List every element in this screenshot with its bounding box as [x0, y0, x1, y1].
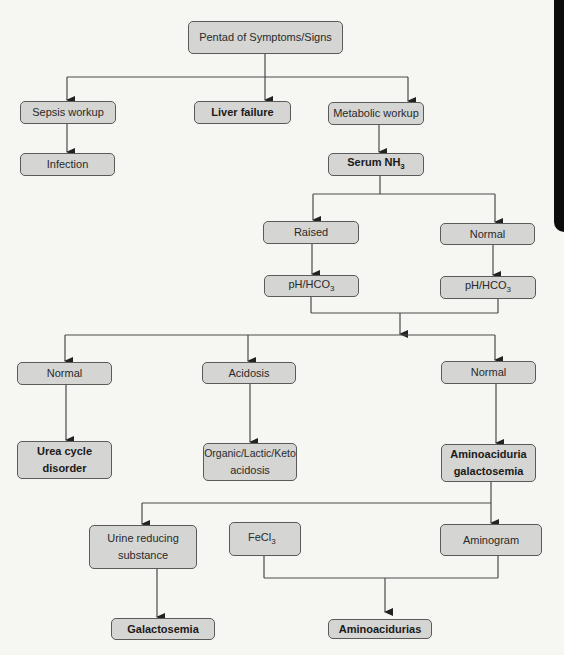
- node-galactosemia: Galactosemia: [111, 618, 215, 640]
- node-label: FeCl3: [248, 529, 276, 550]
- node-label: Aminoacidurias: [339, 621, 422, 638]
- node-pentad-symptoms: Pentad of Symptoms/Signs: [188, 21, 343, 54]
- node-label: pH/HCO3: [288, 276, 334, 297]
- node-serum-nh3: Serum NH3: [328, 153, 424, 176]
- node-ph-hco3-left: pH/HCO3: [264, 275, 359, 297]
- node-metabolic-workup: Metabolic workup: [328, 102, 424, 125]
- node-aminoacidurias: Aminoacidurias: [328, 619, 432, 639]
- node-label-line2: acidosis: [230, 462, 270, 479]
- node-acidosis: Acidosis: [202, 362, 296, 384]
- node-label-line2: galactosemia: [454, 463, 524, 480]
- page-edge-tab: [554, 0, 564, 232]
- node-acidbase-normal-left: Normal: [17, 362, 112, 385]
- node-label-line1: Organic/Lactic/Keto: [204, 445, 296, 462]
- node-label-line1: Urea cycle: [37, 443, 92, 460]
- node-label: Sepsis workup: [32, 104, 104, 121]
- node-label: Aminogram: [463, 532, 519, 549]
- node-label-line1: Urine reducing: [107, 530, 179, 547]
- node-aminogram: Aminogram: [440, 524, 542, 556]
- node-nh3-raised: Raised: [263, 221, 359, 244]
- node-liver-failure: Liver failure: [194, 101, 291, 124]
- node-label: Infection: [47, 156, 89, 173]
- node-label: pH/HCO3: [465, 277, 511, 298]
- node-label: Pentad of Symptoms/Signs: [199, 29, 332, 46]
- node-ph-hco3-right: pH/HCO3: [440, 276, 536, 299]
- node-label: Normal: [471, 364, 506, 381]
- node-infection: Infection: [20, 153, 115, 176]
- node-label: Serum NH3: [347, 154, 405, 175]
- node-label: Acidosis: [229, 365, 270, 382]
- node-label: Normal: [470, 226, 505, 243]
- node-label: Normal: [47, 365, 82, 382]
- node-label: Metabolic workup: [333, 105, 419, 122]
- flowchart-diagram: Pentad of Symptoms/Signs Sepsis workup L…: [0, 0, 564, 655]
- node-label: Liver failure: [211, 104, 273, 121]
- node-label-line2: disorder: [42, 460, 86, 477]
- node-label-line1: Aminoaciduria: [450, 446, 526, 463]
- node-organic-lactic-keto-acidosis: Organic/Lactic/Keto acidosis: [203, 443, 297, 481]
- node-label-line2: substance: [118, 547, 168, 564]
- node-acidbase-normal-right: Normal: [441, 361, 536, 384]
- connector-lines: [0, 0, 564, 655]
- node-aminoaciduria-galactosemia: Aminoaciduria galactosemia: [441, 444, 536, 482]
- node-label: Raised: [294, 224, 328, 241]
- node-nh3-normal: Normal: [440, 223, 535, 245]
- node-urea-cycle-disorder: Urea cycle disorder: [17, 441, 112, 479]
- node-fecl3: FeCl3: [229, 522, 301, 556]
- node-urine-reducing-substance: Urine reducing substance: [89, 525, 197, 569]
- node-sepsis-workup: Sepsis workup: [20, 101, 116, 124]
- node-label: Galactosemia: [127, 621, 199, 638]
